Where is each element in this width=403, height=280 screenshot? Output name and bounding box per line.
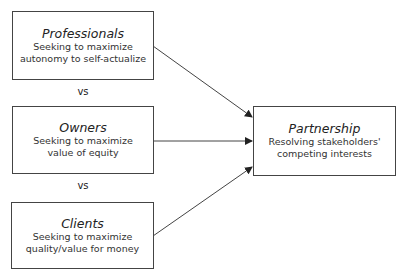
arrow-clients-to-partnership bbox=[153, 167, 252, 236]
clients-desc-line2: quality/value for money bbox=[26, 243, 139, 255]
owners-title: Owners bbox=[59, 121, 106, 135]
arrow-professionals-to-partnership bbox=[153, 46, 252, 117]
vs-label-2: vs bbox=[68, 180, 98, 191]
professionals-desc-line2: autonomy to self-actualize bbox=[20, 53, 146, 65]
clients-desc-line1: Seeking to maximize bbox=[33, 231, 133, 243]
professionals-box: Professionals Seeking to maximize autono… bbox=[12, 11, 154, 80]
owners-desc-line2: value of equity bbox=[47, 147, 118, 159]
partnership-title: Partnership bbox=[289, 122, 361, 136]
partnership-desc-line1: Resolving stakeholders' bbox=[268, 136, 380, 148]
clients-box: Clients Seeking to maximize quality/valu… bbox=[11, 202, 154, 269]
partnership-box: Partnership Resolving stakeholders' comp… bbox=[253, 106, 396, 176]
owners-box: Owners Seeking to maximize value of equi… bbox=[12, 106, 154, 174]
professionals-title: Professionals bbox=[42, 27, 124, 41]
partnership-desc-line2: competing interests bbox=[277, 148, 372, 160]
vs-label-1: vs bbox=[68, 86, 98, 97]
professionals-desc-line1: Seeking to maximize bbox=[33, 41, 133, 53]
clients-title: Clients bbox=[61, 217, 104, 231]
owners-desc-line1: Seeking to maximize bbox=[33, 135, 133, 147]
